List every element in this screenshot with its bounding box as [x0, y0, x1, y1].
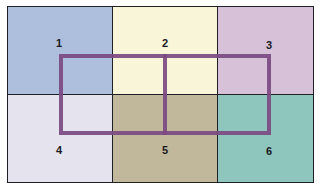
cell-label-1: 1 — [56, 37, 62, 49]
cell-label-3: 3 — [266, 39, 272, 51]
cell-label-2: 2 — [162, 37, 168, 49]
cell-label-4: 4 — [56, 144, 62, 156]
cell-label-6: 6 — [266, 145, 272, 157]
overlay-divider — [163, 54, 167, 135]
cell-label-5: 5 — [162, 144, 168, 156]
